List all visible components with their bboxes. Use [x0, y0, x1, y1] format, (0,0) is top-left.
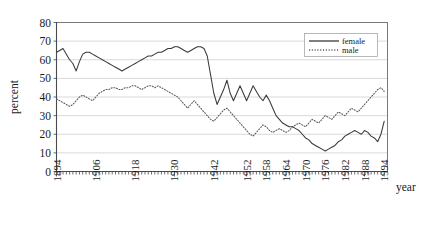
- x-tick-label: 1952: [241, 159, 253, 181]
- legend-label-male: male: [342, 45, 359, 55]
- x-tick-label: 1988: [359, 159, 371, 182]
- y-axis-title: percent: [8, 79, 21, 114]
- y-tick-label: 40: [40, 91, 52, 103]
- x-tick-label: 1894: [51, 159, 63, 182]
- x-axis-title: year: [396, 181, 416, 194]
- legend: female male: [305, 34, 378, 57]
- line-chart: 80706050403020100 1894190619181930194219…: [0, 0, 428, 225]
- y-tick-label: 80: [40, 17, 52, 29]
- y-tick-label: 20: [40, 128, 52, 140]
- x-tick-label: 1976: [319, 159, 331, 182]
- x-tick-label: 1930: [168, 159, 180, 182]
- x-tick-label: 1958: [260, 159, 272, 182]
- y-tick-label: 10: [40, 147, 52, 159]
- y-axis-tick-labels: 80706050403020100: [40, 17, 57, 178]
- chart-canvas: 80706050403020100 1894190619181930194219…: [0, 0, 428, 225]
- gridlines: [57, 41, 388, 153]
- y-tick-label: 70: [40, 35, 52, 47]
- series-line-female: [57, 47, 385, 151]
- data-series: [57, 47, 385, 151]
- x-tick-label: 1994: [378, 159, 390, 182]
- y-tick-label: 60: [40, 54, 52, 66]
- x-axis-tick-marks: [57, 172, 385, 177]
- x-tick-label: 1918: [129, 159, 141, 182]
- x-axis-tick-labels: 1894190619181930194219521958196419701976…: [51, 159, 391, 182]
- x-tick-label: 1942: [208, 160, 220, 182]
- x-tick-label: 1970: [300, 159, 312, 182]
- x-tick-label: 1982: [339, 160, 351, 182]
- y-tick-label: 30: [40, 110, 52, 122]
- legend-box: [305, 34, 378, 57]
- series-line-male: [57, 86, 385, 136]
- y-tick-label: 50: [40, 72, 52, 84]
- x-tick-label: 1964: [280, 159, 292, 182]
- x-tick-label: 1906: [90, 159, 102, 182]
